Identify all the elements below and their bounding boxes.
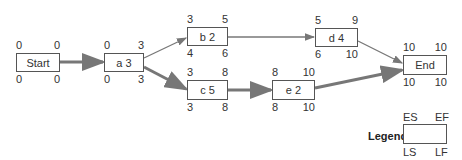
node-e-lf: 10 <box>301 102 315 113</box>
node-a-lf: 3 <box>130 74 144 85</box>
legend-ef: EF <box>435 112 449 123</box>
node-a-es: 0 <box>104 40 110 51</box>
node-a: a 3 <box>104 53 144 72</box>
node-start-ef: 0 <box>46 40 60 51</box>
node-e-es: 8 <box>272 67 278 78</box>
edge-e-end <box>315 70 402 88</box>
node-c-ls: 3 <box>187 102 193 113</box>
legend-box <box>403 124 447 144</box>
edge-a-b <box>144 38 186 58</box>
node-d: d 4 <box>315 28 358 47</box>
node-b-ls: 4 <box>187 48 193 59</box>
node-d-ef: 9 <box>344 15 358 26</box>
node-e-ls: 8 <box>272 102 278 113</box>
node-e-ef: 10 <box>301 67 315 78</box>
node-d-es: 5 <box>315 15 321 26</box>
node-start-es: 0 <box>16 40 22 51</box>
node-c-lf: 8 <box>214 102 228 113</box>
node-end-es: 10 <box>403 42 415 53</box>
node-end-lf: 10 <box>433 77 447 88</box>
node-a-ls: 0 <box>104 74 110 85</box>
node-b: b 2 <box>187 27 228 46</box>
node-c: c 5 <box>187 80 228 100</box>
node-d-ls: 6 <box>315 49 321 60</box>
node-b-ef: 5 <box>214 14 228 25</box>
node-d-lf: 10 <box>344 49 358 60</box>
node-b-lf: 6 <box>214 48 228 59</box>
node-b-es: 3 <box>187 14 193 25</box>
node-end-ls: 10 <box>403 77 415 88</box>
node-start-ls: 0 <box>16 74 22 85</box>
node-e: e 2 <box>272 80 315 100</box>
legend-es: ES <box>403 112 418 123</box>
node-end: End <box>403 55 447 75</box>
node-start: Start <box>16 53 60 72</box>
edge-d-end <box>358 41 402 63</box>
node-start-lf: 0 <box>46 74 60 85</box>
edge-a-c <box>144 67 186 89</box>
node-a-ef: 3 <box>130 40 144 51</box>
node-c-es: 3 <box>187 67 193 78</box>
node-c-ef: 8 <box>214 67 228 78</box>
legend-ls: LS <box>403 147 416 158</box>
legend-lf: LF <box>435 147 448 158</box>
node-end-ef: 10 <box>433 42 447 53</box>
